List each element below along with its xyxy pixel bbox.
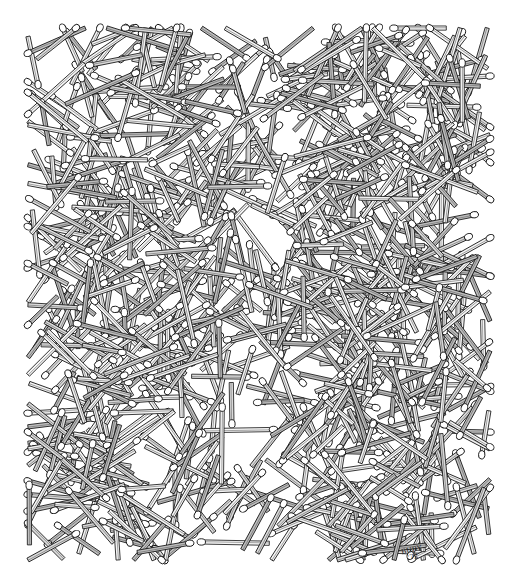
match-head xyxy=(301,333,308,342)
match-head xyxy=(298,77,307,84)
match-head xyxy=(195,235,204,242)
match-head xyxy=(118,486,127,493)
matchstick-pile-illustration xyxy=(0,0,514,586)
matchstick xyxy=(26,481,33,545)
match-head xyxy=(486,73,495,80)
match-head xyxy=(478,450,486,459)
match-head xyxy=(154,395,163,402)
match-head xyxy=(111,306,120,313)
match-head xyxy=(121,308,128,317)
match-head xyxy=(81,155,90,162)
matchstick xyxy=(197,539,269,547)
match-head xyxy=(459,59,465,67)
match-head xyxy=(121,24,130,31)
match-head xyxy=(390,25,398,31)
matchstick-drawing xyxy=(0,0,514,586)
matchstick xyxy=(390,25,447,31)
match-head xyxy=(412,491,420,500)
match-head xyxy=(367,271,376,278)
match-head xyxy=(440,523,449,530)
match-head xyxy=(24,410,33,417)
match-head xyxy=(410,247,417,256)
match-head xyxy=(90,504,99,511)
match-head xyxy=(374,449,383,456)
match-head xyxy=(219,403,225,411)
match-head xyxy=(213,53,222,60)
match-head xyxy=(444,501,451,510)
match-head xyxy=(363,24,370,33)
match-head xyxy=(26,481,32,489)
matchstick xyxy=(249,412,295,468)
match-head xyxy=(207,244,216,251)
match-head xyxy=(470,211,479,219)
match-head xyxy=(178,84,186,90)
matchstick xyxy=(228,382,235,428)
matchstick xyxy=(26,529,81,563)
match-head xyxy=(421,80,430,87)
match-head xyxy=(263,183,272,190)
match-head xyxy=(299,176,308,183)
match-head xyxy=(253,399,262,406)
match-head xyxy=(215,319,222,328)
match-head xyxy=(110,410,119,417)
match-head xyxy=(388,416,395,425)
match-head xyxy=(246,240,253,249)
matchstick xyxy=(459,59,466,122)
match-head xyxy=(229,420,236,428)
match-head xyxy=(270,73,278,83)
match-head xyxy=(293,242,302,249)
match-head xyxy=(155,198,164,205)
match-head xyxy=(197,539,206,546)
match-head xyxy=(472,104,481,111)
match-head xyxy=(99,178,108,185)
match-head xyxy=(442,367,449,376)
